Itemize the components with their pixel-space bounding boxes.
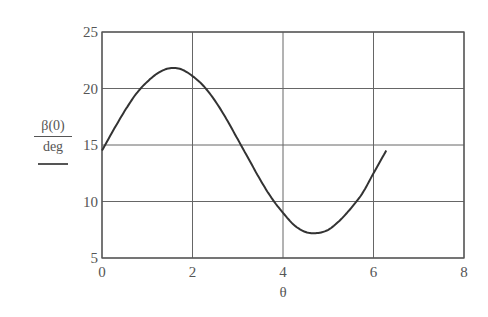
- y-axis-title: β(0) deg: [34, 119, 72, 165]
- x-tick-label: 4: [279, 264, 287, 280]
- x-tick-label: 2: [189, 264, 197, 280]
- y-axis-ticks: 510152025: [83, 24, 98, 266]
- line-chart: 02468 510152025 θ: [0, 0, 488, 317]
- y-tick-label: 20: [83, 81, 98, 97]
- x-axis-ticks: 02468: [98, 264, 468, 280]
- y-tick-label: 10: [83, 194, 98, 210]
- x-tick-label: 6: [370, 264, 378, 280]
- x-tick-label: 8: [460, 264, 468, 280]
- y-axis-title-denominator: deg: [34, 137, 72, 154]
- y-axis-title-numerator: β(0): [34, 119, 72, 137]
- grid-lines: [102, 32, 464, 258]
- y-tick-label: 5: [91, 250, 99, 266]
- y-tick-label: 15: [83, 137, 98, 153]
- y-tick-label: 25: [83, 24, 98, 40]
- y-axis-title-underline: [38, 163, 68, 165]
- x-axis-title: θ: [279, 284, 286, 300]
- x-tick-label: 0: [98, 264, 106, 280]
- data-series-line: [102, 68, 386, 233]
